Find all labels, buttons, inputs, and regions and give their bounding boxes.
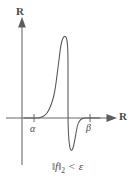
- function-plot: [0, 0, 135, 187]
- caption-epsilon: ε: [79, 160, 83, 172]
- figure-caption: ‖f‖2 < ε: [0, 161, 135, 175]
- axes-group: [6, 17, 117, 165]
- horizontal-axis-arrowhead: [107, 114, 118, 122]
- caption-relation-operator: <: [68, 160, 76, 172]
- horizontal-axis-label: R: [119, 111, 127, 122]
- vertical-axis-label: R: [16, 6, 24, 17]
- caption-norm-index: 2: [61, 166, 65, 175]
- tick-label-alpha: α: [30, 124, 35, 134]
- math-figure: R R α β ‖f‖2 < ε: [0, 0, 135, 187]
- function-curve: [24, 36, 100, 150]
- tick-label-beta: β: [86, 123, 91, 133]
- vertical-axis-arrowhead: [18, 17, 26, 28]
